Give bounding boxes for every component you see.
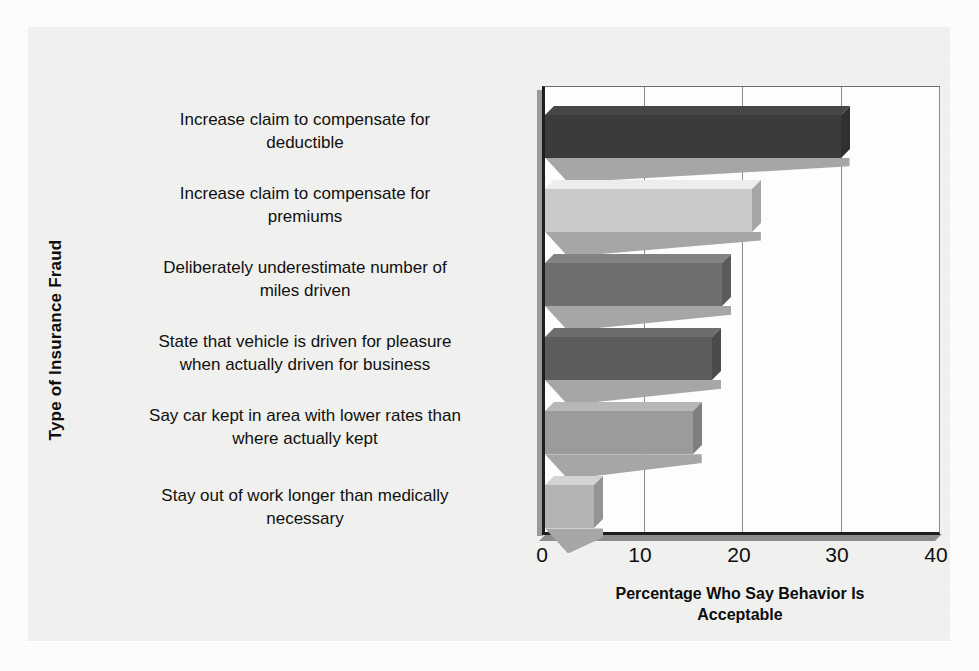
bar-2 xyxy=(545,263,722,306)
category-label-4: Say car kept in area with lower rates th… xyxy=(96,404,514,450)
category-label-4-line2: where actually kept xyxy=(96,427,514,450)
figure-panel: Type of Insurance Fraud Increase claim t… xyxy=(28,27,950,641)
bar-5-front-face xyxy=(545,485,594,528)
x-tick-label-2: 20 xyxy=(709,543,769,567)
x-tick-label-1: 10 xyxy=(610,543,670,567)
category-label-2: Deliberately underestimate number of mil… xyxy=(96,256,514,302)
category-label-5-line2: necessary xyxy=(96,507,514,530)
bar-1-side-face xyxy=(752,180,761,232)
bar-1 xyxy=(545,189,752,232)
category-label-3-line1: State that vehicle is driven for pleasur… xyxy=(96,330,514,353)
x-axis-title-line1: Percentage Who Say Behavior Is xyxy=(538,583,942,604)
bar-0-top-face xyxy=(545,106,850,115)
bar-0-front-face xyxy=(545,115,841,158)
x-tick-label-3: 30 xyxy=(807,543,867,567)
y-axis-title: Type of Insurance Fraud xyxy=(46,205,66,475)
x-axis-title: Percentage Who Say Behavior Is Acceptabl… xyxy=(538,583,942,625)
category-label-0-line1: Increase claim to compensate for xyxy=(96,108,514,131)
bar-5-side-face xyxy=(594,476,603,528)
bar-4-side-face xyxy=(693,402,702,454)
bar-0-drop-shadow xyxy=(545,158,850,183)
gridline-40 xyxy=(939,87,940,532)
bar-4 xyxy=(545,411,693,454)
x-tick-label-group: 0 10 20 30 40 xyxy=(542,543,942,573)
bar-2-front-face xyxy=(545,263,722,306)
category-label-0-line2: deductible xyxy=(96,131,514,154)
bar-4-top-face xyxy=(545,402,702,411)
bar-2-side-face xyxy=(722,254,731,306)
category-label-0: Increase claim to compensate for deducti… xyxy=(96,108,514,154)
bar-3 xyxy=(545,337,712,380)
category-label-3-line2: when actually driven for business xyxy=(96,353,514,376)
bar-0-side-face xyxy=(841,106,850,158)
x-tick-label-4: 40 xyxy=(906,543,966,567)
category-label-1-line2: premiums xyxy=(96,205,514,228)
category-label-5: Stay out of work longer than medically n… xyxy=(96,484,514,530)
bar-0 xyxy=(545,115,841,158)
category-label-group: Increase claim to compensate for deducti… xyxy=(96,86,514,531)
category-label-5-line1: Stay out of work longer than medically xyxy=(96,484,514,507)
category-label-2-line2: miles driven xyxy=(96,279,514,302)
category-label-3: State that vehicle is driven for pleasur… xyxy=(96,330,514,376)
bar-2-top-face xyxy=(545,254,731,263)
category-label-1-line1: Increase claim to compensate for xyxy=(96,182,514,205)
bar-1-front-face xyxy=(545,189,752,232)
bar-3-side-face xyxy=(712,328,721,380)
bar-4-front-face xyxy=(545,411,693,454)
category-label-4-line1: Say car kept in area with lower rates th… xyxy=(96,404,514,427)
bar-3-top-face xyxy=(545,328,721,337)
bar-5 xyxy=(545,485,594,528)
x-axis-title-line2: Acceptable xyxy=(538,604,942,625)
category-label-2-line1: Deliberately underestimate number of xyxy=(96,256,514,279)
bar-1-drop-shadow xyxy=(545,232,761,257)
category-label-1: Increase claim to compensate for premium… xyxy=(96,182,514,228)
bar-3-front-face xyxy=(545,337,712,380)
bar-1-top-face xyxy=(545,180,761,189)
plot-area xyxy=(542,86,940,535)
